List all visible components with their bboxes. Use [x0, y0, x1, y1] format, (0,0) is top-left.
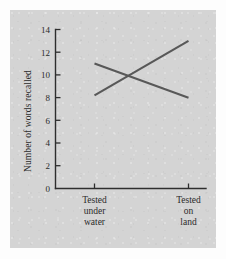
y-tick-label-12: 12 [41, 48, 50, 58]
x-label-under-water-line2: under [84, 206, 106, 216]
x-label-on-land-line2: on [184, 206, 194, 216]
line-chart: Number of words recalled 14 12 10 8 6 4 … [0, 0, 226, 259]
x-axis-category-labels: Tested under water Tested on land [82, 195, 201, 227]
x-axis-ticks [95, 184, 189, 189]
y-tick-label-14: 14 [41, 25, 51, 35]
x-label-on-land-line3: land [180, 217, 197, 227]
x-label-under-water-line3: water [84, 217, 106, 227]
y-tick-label-10: 10 [41, 70, 51, 80]
y-tick-label-8: 8 [46, 93, 51, 103]
x-label-on-land-line1: Tested [176, 195, 201, 205]
x-label-under-water-line1: Tested [82, 195, 107, 205]
y-tick-label-2: 2 [46, 161, 51, 171]
y-tick-label-4: 4 [46, 138, 51, 148]
series-group [95, 41, 189, 98]
y-tick-label-6: 6 [46, 116, 51, 126]
y-tick-label-0: 0 [46, 184, 51, 194]
y-axis-ticks: 14 12 10 8 6 4 2 0 [41, 25, 61, 194]
figure-container: Number of words recalled 14 12 10 8 6 4 … [0, 0, 226, 259]
y-axis-title: Number of words recalled [23, 70, 33, 172]
